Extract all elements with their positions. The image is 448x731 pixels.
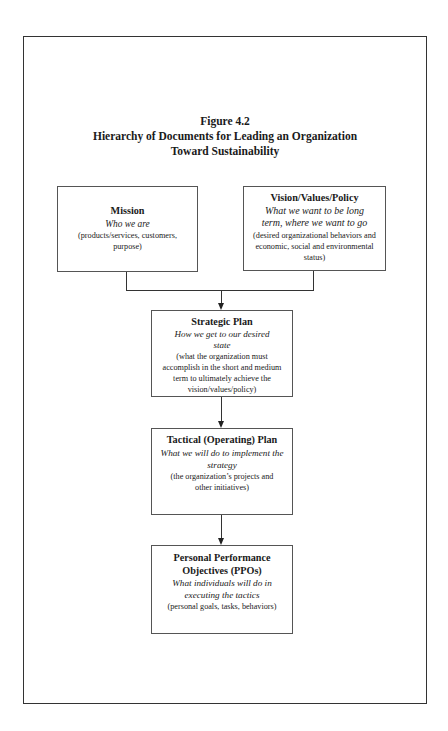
connector-mission-down — [126, 272, 127, 291]
figure-title-line2: Toward Sustainability — [23, 144, 427, 159]
mission-heading: Mission — [64, 205, 191, 218]
connector-horizontal — [126, 290, 314, 291]
connector-vision-down — [313, 271, 314, 291]
vision-subtitle: What we want to be long term, where we w… — [248, 205, 381, 230]
mission-subtitle: Who we are — [64, 218, 191, 230]
mission-description: (products/services, customers, purpose) — [64, 230, 191, 252]
connector-tactical-to-ppo — [221, 515, 222, 539]
ppo-subtitle: What individuals will do in executing th… — [156, 577, 288, 601]
vision-description: (desired organizational behaviors and ec… — [248, 230, 381, 263]
tactical-plan-box: Tactical (Operating) Plan What we will d… — [151, 428, 293, 515]
ppo-box: Personal Performance Objectives (PPOs) W… — [151, 545, 293, 634]
strategic-description: (what the organization must accomplish i… — [156, 351, 288, 395]
connector-strategic-to-tactical — [221, 397, 222, 421]
tactical-subtitle: What we will do to implement the strateg… — [156, 447, 288, 471]
tactical-heading: Tactical (Operating) Plan — [156, 434, 288, 447]
arrow-down-icon — [218, 303, 224, 310]
ppo-description: (personal goals, tasks, behaviors) — [156, 601, 288, 612]
figure-title-line1: Hierarchy of Documents for Leading an Or… — [23, 129, 427, 144]
arrow-down-icon — [218, 538, 224, 545]
vision-box: Vision/Values/Policy What we want to be … — [243, 186, 386, 271]
tactical-description: (the organization’s projects and other i… — [156, 471, 288, 493]
strategic-heading: Strategic Plan — [156, 316, 288, 329]
mission-box: Mission Who we are (products/services, c… — [57, 186, 198, 272]
strategic-subtitle: How we get to our desired state — [156, 329, 288, 351]
strategic-plan-box: Strategic Plan How we get to our desired… — [151, 310, 293, 397]
arrow-down-icon — [218, 421, 224, 428]
vision-heading: Vision/Values/Policy — [248, 192, 381, 205]
figure-number: Figure 4.2 — [23, 114, 427, 129]
ppo-heading: Personal Performance Objectives (PPOs) — [156, 552, 288, 577]
